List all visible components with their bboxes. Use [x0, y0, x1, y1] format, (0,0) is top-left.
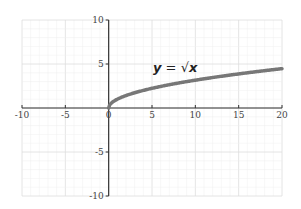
y-tick-label: 5	[98, 59, 104, 69]
y-tick-label: -5	[95, 147, 104, 157]
x-tick-label: 15	[233, 110, 245, 120]
y-tick-label: 10	[92, 15, 104, 25]
y-tick-label: -10	[89, 191, 104, 201]
x-tick-label: 10	[190, 110, 202, 120]
x-tick-label: -5	[61, 110, 70, 120]
x-tick-label: 5	[149, 110, 155, 120]
x-tick-label: 20	[276, 110, 288, 120]
sqrt-function-chart: -10-505101520105-5-10 y = √x	[0, 0, 301, 209]
equation-annotation: y = √x	[153, 60, 198, 75]
x-tick-label: -10	[15, 110, 30, 120]
x-tick-label: 0	[106, 110, 112, 120]
